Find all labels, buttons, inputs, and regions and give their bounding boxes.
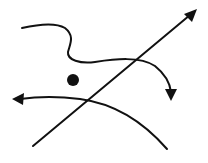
dot-marker: [67, 74, 79, 86]
arrowhead-up-right-icon: [184, 9, 197, 22]
arrowhead-left-icon: [12, 93, 24, 105]
wavy-arrow-line: [22, 25, 171, 92]
arrowhead-down-icon: [165, 89, 177, 101]
diagram-canvas: [0, 0, 208, 163]
curved-arrow-line: [20, 97, 167, 149]
diagram-svg: [0, 0, 208, 163]
